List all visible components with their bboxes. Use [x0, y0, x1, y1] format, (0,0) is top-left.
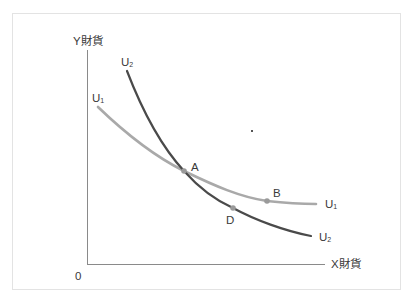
- point-d-marker: [230, 205, 236, 211]
- u2-right-label: U2: [319, 232, 331, 244]
- point-a-label: A: [191, 162, 199, 174]
- u2-top-label-sub: 2: [129, 61, 133, 68]
- u1-right-label-sub: 1: [333, 203, 337, 210]
- origin-label: 0: [75, 271, 81, 283]
- u1-left-label: U1: [92, 93, 104, 105]
- x-axis-label: X財貨: [331, 259, 361, 271]
- point-b-label: B: [273, 188, 281, 200]
- indifference-curve-diagram: [0, 0, 411, 302]
- point-b-marker: [264, 198, 270, 204]
- u2-right-label-sub: 2: [327, 236, 331, 243]
- point-a-marker: [181, 168, 187, 174]
- stray-dot: [251, 130, 253, 132]
- y-axis-label: Y財貨: [73, 36, 103, 48]
- point-d-label: D: [226, 215, 234, 227]
- u1-left-label-sub: 1: [100, 97, 104, 104]
- u1-right-label: U1: [325, 199, 337, 211]
- u2-top-label: U2: [121, 57, 133, 69]
- u1-curve: [98, 107, 316, 204]
